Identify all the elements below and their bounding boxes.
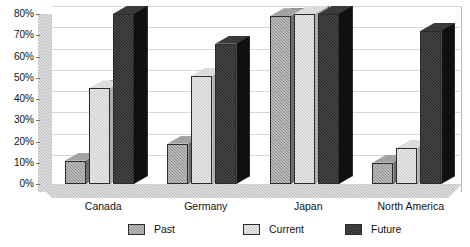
y-axis-tick-label: 70% [0,30,34,40]
legend-swatch-icon [128,224,145,235]
bar-front-face [89,88,110,184]
bar-side-face [236,36,250,184]
bar-past-canada [65,153,86,184]
y-axis-tick-mark [36,99,40,100]
chart-legend: PastCurrentFuture [0,222,470,242]
y-axis-tick-label: 30% [0,115,34,125]
bar-current-japan [294,6,315,184]
bar-side-face [134,6,148,184]
bar-front-face [396,148,417,184]
legend-label: Past [154,224,175,235]
legend-item-future[interactable]: Future [345,222,401,236]
bar-front-face [318,14,339,184]
y-axis-tick-mark [36,35,40,36]
bar-side-face [441,23,455,184]
bar-future-north-america [420,23,441,184]
y-axis-tick-mark [36,142,40,143]
bar-front-face [372,163,393,184]
bar-side-face [339,6,353,184]
bar-future-canada [113,6,134,184]
bar-front-face [215,44,236,184]
y-axis-tick-label: 80% [0,9,34,19]
bar-front-face [65,161,86,184]
legend-swatch-icon [243,224,260,235]
bar-past-japan [270,8,291,184]
legend-item-current[interactable]: Current [243,222,304,236]
y-axis-tick-mark [36,14,40,15]
bar-front-face [113,14,134,184]
bar-front-face [294,14,315,184]
bar-current-germany [191,68,212,184]
bar-front-face [191,76,212,184]
legend-swatch-icon [345,224,362,235]
y-axis-tick-label: 0% [0,179,34,189]
y-axis-tick-mark [36,184,40,185]
y-axis-tick-mark [36,120,40,121]
chart-left-wall [38,14,52,192]
legend-item-past[interactable]: Past [128,222,175,236]
bar-future-japan [318,6,339,184]
plot-area [38,6,462,198]
x-axis-category-label: North America [350,200,470,212]
y-axis-tick-label: 10% [0,158,34,168]
y-axis-tick-label: 50% [0,73,34,83]
legend-label: Future [371,224,401,235]
bar-current-north-america [396,140,417,184]
bar-front-face [270,16,291,184]
y-axis-tick-mark [36,78,40,79]
bar-current-canada [89,80,110,184]
bar-front-face [167,144,188,184]
chart-floor [38,184,462,198]
y-axis-tick-label: 20% [0,137,34,147]
bar-past-germany [167,136,188,184]
bar-future-germany [215,36,236,184]
y-axis-tick-label: 60% [0,52,34,62]
y-axis-tick-mark [36,163,40,164]
y-axis-tick-label: 40% [0,94,34,104]
bar-chart: 0%10%20%30%40%50%60%70%80% CanadaGermany… [0,0,470,247]
y-axis-tick-mark [36,57,40,58]
bar-past-north-america [372,155,393,184]
bar-front-face [420,31,441,184]
legend-label: Current [269,224,304,235]
